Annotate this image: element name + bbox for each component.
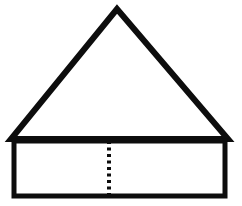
figure-canvas — [0, 0, 242, 206]
figure-svg — [0, 0, 242, 206]
canvas-background — [0, 0, 242, 206]
